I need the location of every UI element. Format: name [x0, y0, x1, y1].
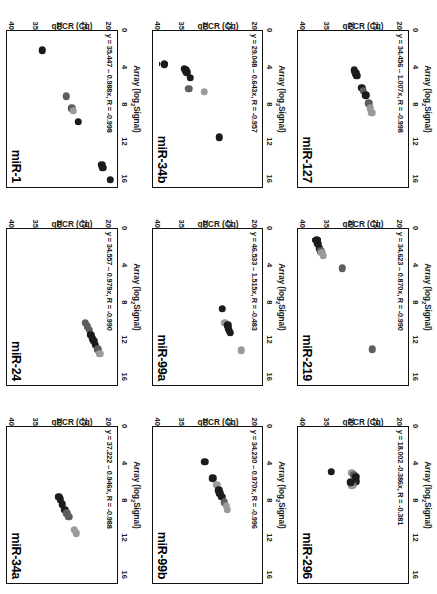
panel-title: miR-127 [300, 136, 314, 183]
panel-title: miR-219 [300, 334, 314, 381]
y-tick-label: 4 [265, 263, 274, 267]
data-point [107, 176, 115, 184]
x-tick-label: 40 [6, 12, 15, 30]
x-tick-label: 25 [225, 12, 234, 30]
y-tick-label: 8 [265, 300, 274, 304]
data-point [96, 350, 104, 358]
y-axis-title-tail: Signal) [132, 304, 141, 331]
x-tick-label: 35 [322, 210, 331, 228]
data-point [65, 513, 73, 521]
y-axis-title-main: Array (log [132, 263, 141, 301]
regression-equation: y = 34.456 – 1.007x, R = -0.998 [396, 34, 405, 133]
y-axis-ticks: 0481216 [264, 30, 274, 188]
y-tick-label: 8 [265, 498, 274, 502]
x-tick-label: 30 [346, 210, 355, 228]
x-axis-ticks: 2025303540 [297, 210, 409, 228]
x-tick-label: 35 [31, 408, 40, 426]
x-tick-label: 30 [201, 210, 210, 228]
panel-mir-34a: Array (log2Signal)0481216qPCR (Cq)202530… [0, 396, 146, 594]
x-tick-label: 30 [55, 12, 64, 30]
regression-equation: y = 34.623 – 0.870x, R = -0.990 [396, 232, 405, 331]
data-point [200, 88, 208, 96]
y-tick-label: 8 [411, 102, 420, 106]
y-axis-title-main: Array (log [277, 65, 286, 103]
x-tick-label: 40 [152, 408, 161, 426]
y-tick-label: 12 [411, 533, 420, 541]
y-tick-label: 12 [120, 335, 129, 343]
x-tick-label: 35 [176, 210, 185, 228]
y-tick-label: 12 [265, 533, 274, 541]
y-tick-label: 8 [411, 300, 420, 304]
y-tick-label: 0 [411, 28, 420, 32]
y-tick-label: 12 [120, 137, 129, 145]
data-point [319, 252, 327, 260]
panel-title: miR-296 [300, 532, 314, 579]
x-tick-label: 25 [79, 210, 88, 228]
data-point [362, 91, 370, 99]
y-axis-title: Array (log2Signal) [130, 400, 141, 590]
x-tick-label: 30 [346, 12, 355, 30]
x-tick-label: 25 [371, 210, 380, 228]
y-axis-ticks: 0481216 [119, 30, 129, 188]
x-tick-label: 35 [176, 12, 185, 30]
data-point [187, 74, 195, 82]
y-tick-label: 8 [265, 102, 274, 106]
x-tick-label: 35 [31, 12, 40, 30]
y-tick-label: 0 [265, 28, 274, 32]
y-axis-title-main: Array (log [277, 461, 286, 499]
x-tick-label: 40 [6, 210, 15, 228]
data-point [74, 118, 82, 126]
plot-area: y = 29.048 – 0.643x, R = -0.957miR-34b [152, 30, 264, 188]
data-point [223, 506, 231, 514]
x-tick-label: 20 [395, 12, 404, 30]
y-axis-title: Array (log2Signal) [421, 202, 432, 392]
y-axis-title-tail: Signal) [132, 106, 141, 133]
panel-inner: Array (log2Signal)0481216qPCR (Cq)202530… [148, 4, 288, 194]
y-tick-label: 8 [120, 102, 129, 106]
y-axis-ticks: 0481216 [264, 228, 274, 386]
data-point [70, 107, 78, 115]
y-axis-title-tail: Signal) [423, 304, 432, 331]
x-tick-label: 30 [55, 408, 64, 426]
data-point [72, 530, 80, 538]
data-point [227, 329, 235, 337]
y-axis-title: Array (log2Signal) [421, 4, 432, 194]
panel-mir-296: Array (log2Signal)0481216qPCR (Cq)202530… [291, 396, 437, 594]
y-tick-label: 0 [411, 226, 420, 230]
data-point [368, 109, 376, 117]
panel-mir-99b: Array (log2Signal)0481216qPCR (Cq)202530… [146, 396, 292, 594]
y-tick-label: 4 [265, 65, 274, 69]
x-tick-label: 40 [298, 408, 307, 426]
x-tick-label: 35 [322, 408, 331, 426]
x-axis-ticks: 2025303540 [6, 408, 118, 426]
regression-equation: y = 34.557 – 0.979x, R = -0.990 [105, 232, 114, 331]
y-axis-ticks: 0481216 [410, 228, 420, 386]
x-tick-label: 20 [249, 408, 258, 426]
x-tick-label: 20 [395, 408, 404, 426]
y-tick-label: 16 [265, 174, 274, 182]
x-tick-label: 40 [298, 210, 307, 228]
y-axis-title-main: Array (log [423, 65, 432, 103]
panel-inner: Array (log2Signal)0481216qPCR (Cq)202530… [293, 4, 433, 194]
x-tick-label: 30 [55, 210, 64, 228]
panel-inner: Array (log2Signal)0481216qPCR (Cq)202530… [148, 202, 288, 392]
x-axis-ticks: 2025303540 [152, 210, 264, 228]
y-axis-title-main: Array (log [132, 461, 141, 499]
y-axis-title-tail: Signal) [132, 502, 141, 529]
x-tick-label: 25 [79, 408, 88, 426]
x-tick-label: 20 [103, 408, 112, 426]
panel-inner: Array (log2Signal)0481216qPCR (Cq)202530… [293, 202, 433, 392]
x-tick-label: 30 [346, 408, 355, 426]
y-axis-title-main: Array (log [423, 461, 432, 499]
data-point [216, 134, 224, 142]
y-axis-ticks: 0481216 [410, 30, 420, 188]
y-tick-label: 12 [120, 533, 129, 541]
data-point [201, 458, 209, 466]
y-axis-title-tail: Signal) [423, 502, 432, 529]
y-tick-label: 0 [411, 424, 420, 428]
data-point [99, 164, 107, 172]
panel-inner: Array (log2Signal)0481216qPCR (Cq)202530… [148, 400, 288, 590]
data-point [238, 346, 246, 354]
regression-equation: y = 18.002 -0.386x, R = -0.381 [396, 430, 405, 525]
panel-inner: Array (log2Signal)0481216qPCR (Cq)202530… [2, 4, 142, 194]
